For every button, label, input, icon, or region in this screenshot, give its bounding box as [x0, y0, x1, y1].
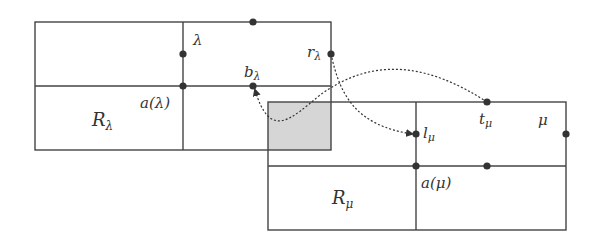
- dot-r-lambda: [327, 50, 334, 57]
- dot-b-lambda: [249, 82, 256, 89]
- dot-a-lambda: [179, 82, 186, 89]
- dot-mu: [562, 130, 569, 137]
- label-lambda: λ: [192, 31, 203, 49]
- label-r-lambda: rλ: [307, 43, 321, 63]
- label-R-lambda: Rλ: [91, 109, 113, 133]
- dot-t-mu: [483, 98, 490, 105]
- label-mu: μ: [538, 111, 548, 129]
- arrow-r-lambda-to-l-mu: [331, 54, 412, 134]
- diagram-svg: Rλ λ a(λ) bλ rλ Rμ μ a(μ) tμ lμ: [0, 0, 599, 248]
- label-a-lambda: a(λ): [140, 94, 170, 112]
- label-a-mu: a(μ): [421, 174, 452, 192]
- label-R-mu: Rμ: [331, 187, 354, 211]
- overlap-region: [268, 102, 331, 150]
- dot-a-mu: [412, 162, 419, 169]
- dots-mu: [412, 98, 569, 169]
- label-b-lambda: bλ: [244, 63, 261, 83]
- label-t-mu: tμ: [479, 110, 492, 130]
- dot-top-lambda: [249, 18, 256, 25]
- dot-mid-mu: [483, 162, 490, 169]
- dot-lambda: [179, 50, 186, 57]
- dot-l-mu: [412, 130, 419, 137]
- label-l-mu: lμ: [423, 124, 435, 144]
- diagram-canvas: Rλ λ a(λ) bλ rλ Rμ μ a(μ) tμ lμ: [0, 0, 599, 248]
